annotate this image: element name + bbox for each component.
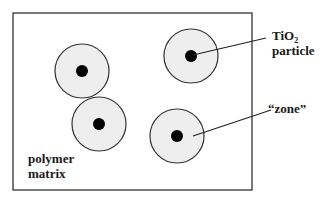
tio2-particle-core xyxy=(93,118,105,130)
particle-bottom-right xyxy=(150,109,204,163)
particle-bottom-left xyxy=(72,97,126,151)
tio2-particle-core xyxy=(185,50,197,62)
tio2-particle-core xyxy=(76,65,88,77)
particle-label: particle xyxy=(272,43,315,58)
particle-top-left xyxy=(55,44,109,98)
zone-label: “zone” xyxy=(268,101,306,116)
tio2-polymer-diagram: TiO2 particle “zone” polymer matrix xyxy=(0,0,323,199)
tio2-particle-core xyxy=(171,130,183,142)
polymer-label: polymer xyxy=(28,151,74,166)
matrix-label: matrix xyxy=(28,166,66,181)
particle-top-right xyxy=(164,29,218,83)
